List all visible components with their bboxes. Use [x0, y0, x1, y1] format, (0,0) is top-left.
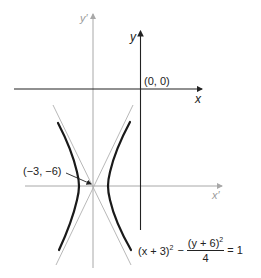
equation-minus: − — [177, 244, 183, 256]
asymptote-1 — [53, 105, 131, 265]
x-axis-label: x — [195, 93, 201, 105]
x-prime-axis-label: x′ — [212, 190, 220, 201]
equation-fraction: (y + 6)2 4 — [187, 236, 224, 264]
equation-rhs: = 1 — [227, 244, 243, 256]
asymptote-2 — [56, 105, 133, 265]
origin-label: (0, 0) — [144, 76, 170, 87]
y-axis-label: y — [130, 31, 136, 43]
fraction-denominator: 4 — [202, 251, 208, 264]
fraction-numerator: (y + 6)2 — [187, 236, 224, 251]
equation-term-x: (x + 3)2 — [138, 244, 173, 257]
center-label: (−3, −6) — [23, 166, 62, 177]
hyperbola-equation: (x + 3)2 − (y + 6)2 4 = 1 — [138, 236, 243, 264]
y-prime-axis-label: y′ — [80, 13, 88, 24]
